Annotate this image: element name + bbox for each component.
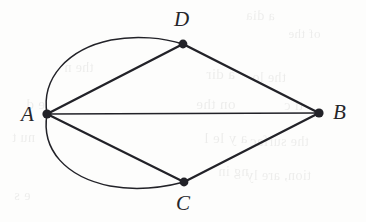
graph-vertex-a <box>42 109 51 118</box>
graph-vertex-b <box>314 108 323 117</box>
graph-figure: a diaof thethe na dirthe loe don theti c… <box>0 0 366 222</box>
graph-edge-a-c-curve <box>46 114 184 188</box>
graph-canvas <box>0 0 366 222</box>
graph-vertex-c <box>180 178 189 187</box>
graph-edge-a-c-line <box>47 114 184 182</box>
graph-edge-c-b <box>184 113 319 182</box>
vertex-label-a: A <box>21 104 34 125</box>
edge-layer <box>46 37 319 188</box>
graph-edge-a-b <box>47 113 319 114</box>
graph-vertex-d <box>179 40 188 49</box>
vertex-label-c: C <box>176 193 190 214</box>
vertex-label-b: B <box>333 102 346 123</box>
graph-edge-a-d-line <box>47 44 183 114</box>
vertex-label-d: D <box>174 9 189 30</box>
graph-edge-d-b <box>183 44 319 113</box>
